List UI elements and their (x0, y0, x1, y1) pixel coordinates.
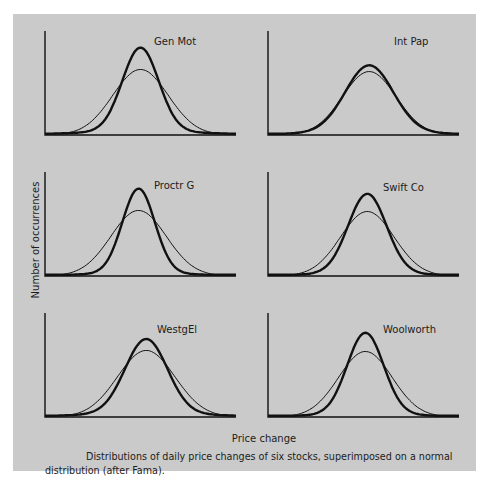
empirical-curve (268, 194, 459, 275)
panel-westgel (45, 313, 236, 417)
normal-curve (268, 352, 459, 416)
panel-int-pap (268, 31, 459, 135)
panel-label-int-pap: Int Pap (394, 36, 428, 47)
y-axis-label: Number of occurrences (30, 182, 41, 299)
x-axis-label: Price change (232, 433, 296, 444)
panel-label-gen-mot: Gen Mot (154, 36, 196, 47)
panel-label-woolworth: Woolworth (383, 324, 436, 335)
normal-curve (45, 70, 236, 134)
empirical-curve (45, 189, 236, 275)
panel-swift-co (268, 172, 459, 276)
empirical-curve (268, 65, 459, 134)
panel-label-proctr-g: Proctr G (154, 180, 194, 191)
normal-curve (45, 211, 236, 275)
panel-proctr-g (45, 172, 236, 276)
normal-curve (45, 351, 236, 416)
axes (45, 313, 236, 417)
panel-label-westgel: WestgEl (157, 324, 197, 335)
caption-line-2: distribution (after Fama). (45, 465, 165, 476)
figure-caption: Distributions of daily price changes of … (57, 450, 477, 478)
chart-plot-area (13, 14, 476, 471)
normal-curve (268, 212, 459, 275)
axes (268, 31, 459, 135)
axes (45, 172, 236, 276)
empirical-curve (45, 339, 236, 416)
figure-panel: Gen Mot Int Pap Proctr G Swift Co WestgE… (13, 14, 476, 471)
panel-gen-mot (45, 31, 236, 135)
empirical-curve (268, 333, 459, 416)
caption-line-1: Distributions of daily price changes of … (86, 451, 452, 462)
empirical-curve (45, 48, 236, 134)
panel-label-swift-co: Swift Co (383, 182, 424, 193)
axes (268, 172, 459, 276)
normal-curve (268, 72, 459, 134)
